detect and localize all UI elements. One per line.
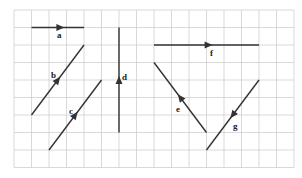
vector-label: a: [57, 30, 62, 40]
vector-label: g: [233, 121, 238, 131]
vector-label: d: [122, 72, 127, 82]
vector-label: b: [51, 70, 56, 80]
vectors: abcdfeg: [32, 24, 260, 150]
vector-grid-diagram: abcdfeg: [0, 0, 302, 178]
vector-a: a: [32, 24, 85, 40]
vector-label: f: [210, 48, 214, 58]
vector-label: c: [69, 106, 73, 116]
vector-label: e: [176, 104, 180, 114]
arrowhead-icon: [230, 110, 238, 119]
arrowhead-icon: [178, 94, 186, 103]
